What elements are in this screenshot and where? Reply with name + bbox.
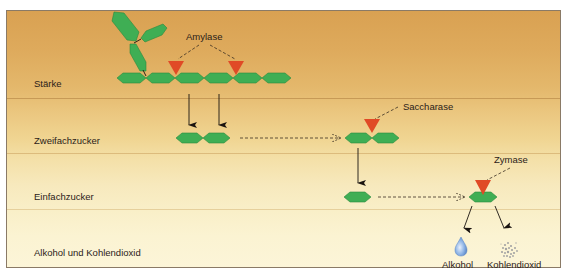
enzyme-label-saccharase: Saccharase: [403, 101, 453, 112]
monosaccharide-left: [344, 192, 371, 202]
starch-chain: [117, 73, 291, 83]
alcohol-drop-icon: [455, 237, 467, 256]
disaccharide-left: [176, 133, 230, 143]
co2-bubbles-icon: [500, 242, 517, 258]
starch-branch: [112, 12, 167, 76]
disaccharide-right: [345, 133, 399, 143]
enzyme-saccharase: [364, 119, 380, 133]
enzyme-label-amylase: Amylase: [186, 31, 222, 42]
diagram-graphics: Amylase Saccharase Zymase: [0, 0, 565, 277]
product-label-co2: Kohlendioxid: [487, 259, 541, 270]
enzyme-label-zymase: Zymase: [494, 154, 528, 165]
product-label-alcohol: Alkohol: [442, 259, 473, 270]
